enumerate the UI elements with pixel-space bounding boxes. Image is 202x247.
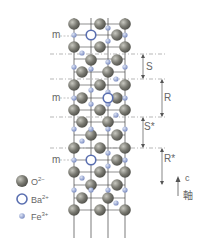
iron-atom bbox=[71, 126, 76, 131]
oxygen-atom bbox=[76, 66, 88, 78]
oxygen-atom bbox=[94, 104, 106, 116]
oxygen-atom bbox=[94, 18, 106, 30]
iron-atom bbox=[71, 95, 76, 100]
dimension-r-arrowhead-top bbox=[160, 79, 164, 83]
block-label-s: S bbox=[146, 61, 153, 72]
iron-atom bbox=[79, 138, 84, 143]
oxygen-atom bbox=[94, 142, 106, 154]
oxygen-atom bbox=[119, 18, 131, 30]
oxygen-atom bbox=[111, 179, 123, 191]
iron-atom bbox=[79, 50, 84, 55]
oxygen-legend-label: O2− bbox=[31, 176, 45, 187]
oxygen-atom bbox=[68, 142, 80, 154]
iron-atom bbox=[105, 126, 110, 131]
iron-atom bbox=[71, 157, 76, 162]
oxygen-atom bbox=[119, 79, 131, 91]
dimension-s-arrowhead-bottom bbox=[141, 75, 145, 79]
legend: O2− Ba2+ Fe3+ bbox=[16, 175, 49, 222]
block-label-s-star: S* bbox=[144, 121, 155, 132]
oxygen-atom bbox=[68, 204, 80, 216]
mirror-label-2: m bbox=[52, 92, 60, 103]
oxygen-atom bbox=[111, 29, 123, 41]
dimension-r-star-arrowhead-bottom bbox=[160, 181, 164, 185]
crystal-structure-diagram: m m m S R S* R* c 軸 O2− Ba2+ Fe3+ bbox=[0, 0, 202, 247]
barium-atom bbox=[103, 93, 113, 103]
oxygen-atom bbox=[119, 41, 131, 53]
iron-atom bbox=[105, 59, 110, 64]
oxygen-atom bbox=[111, 129, 123, 141]
axis-label-jiku: 軸 bbox=[183, 189, 193, 201]
iron-legend-label: Fe3+ bbox=[31, 211, 49, 222]
iron-atom bbox=[79, 175, 84, 180]
oxygen-atom bbox=[76, 192, 88, 204]
iron-atom bbox=[88, 187, 93, 192]
barium-legend-icon bbox=[17, 194, 27, 204]
oxygen-atom bbox=[76, 116, 88, 128]
iron-atom bbox=[71, 187, 76, 192]
dimension-r-star-arrowhead-top bbox=[160, 148, 164, 152]
iron-atom bbox=[88, 126, 93, 131]
dimension-r-arrowhead-bottom bbox=[160, 113, 164, 117]
iron-atom bbox=[71, 32, 76, 37]
oxygen-atom bbox=[119, 142, 131, 154]
iron-atom bbox=[122, 126, 127, 131]
iron-atom bbox=[105, 25, 110, 30]
dimension-s-star-arrowhead-bottom bbox=[141, 144, 145, 148]
mirror-label-3: m bbox=[52, 154, 60, 165]
oxygen-legend-icon bbox=[16, 175, 28, 187]
oxygen-atom bbox=[94, 41, 106, 53]
iron-atom bbox=[71, 64, 76, 69]
barium-legend-label: Ba2+ bbox=[31, 194, 49, 205]
oxygen-atom bbox=[111, 54, 123, 66]
oxygen-atom bbox=[85, 54, 97, 66]
oxygen-atom bbox=[119, 104, 131, 116]
iron-atom bbox=[88, 66, 93, 71]
oxygen-atom bbox=[102, 192, 114, 204]
iron-atom bbox=[105, 150, 110, 155]
iron-atom bbox=[122, 95, 127, 100]
oxygen-atom bbox=[119, 166, 131, 178]
oxygen-atom bbox=[102, 116, 114, 128]
oxygen-atom bbox=[76, 92, 88, 104]
iron-atom bbox=[113, 112, 118, 117]
oxygen-atom bbox=[68, 18, 80, 30]
oxygen-atom bbox=[94, 204, 106, 216]
iron-atom bbox=[122, 32, 127, 37]
block-label-r: R bbox=[164, 92, 171, 103]
barium-atom bbox=[86, 30, 96, 40]
oxygen-atom bbox=[94, 166, 106, 178]
oxygen-atom bbox=[94, 79, 106, 91]
iron-atom bbox=[105, 187, 110, 192]
iron-atom bbox=[105, 163, 110, 168]
oxygen-atom bbox=[68, 166, 80, 178]
iron-atom bbox=[113, 76, 118, 81]
oxygen-atom bbox=[111, 154, 123, 166]
iron-legend-icon bbox=[19, 213, 25, 219]
iron-atom bbox=[88, 87, 93, 92]
oxygen-atom bbox=[68, 104, 80, 116]
iron-atom bbox=[122, 187, 127, 192]
barium-atom bbox=[86, 155, 96, 165]
iron-atom bbox=[122, 157, 127, 162]
mirror-label-1: m bbox=[52, 29, 60, 40]
c-axis-arrowhead bbox=[176, 176, 181, 182]
iron-atom bbox=[88, 101, 93, 106]
oxygen-atom bbox=[119, 204, 131, 216]
oxygen-atom bbox=[102, 66, 114, 78]
oxygen-atom bbox=[68, 41, 80, 53]
iron-atom bbox=[113, 200, 118, 205]
block-label-r-star: R* bbox=[164, 153, 175, 164]
iron-atom bbox=[105, 38, 110, 43]
iron-atom bbox=[122, 64, 127, 69]
axis-label-c: c bbox=[185, 173, 190, 183]
oxygen-atom bbox=[68, 79, 80, 91]
dimension-s-arrowhead-top bbox=[141, 54, 145, 58]
